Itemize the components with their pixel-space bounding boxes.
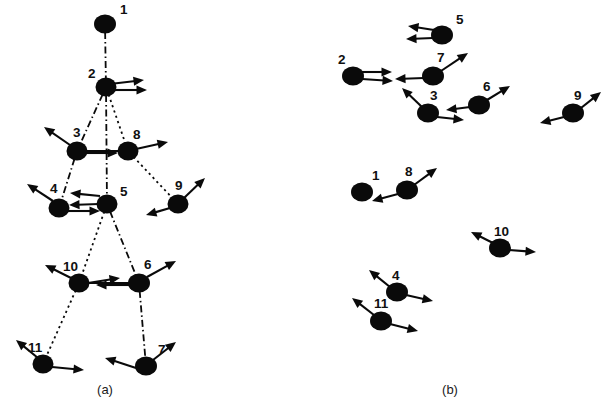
point-light-dot-b-9: [562, 104, 584, 123]
joint-label-b-11: 11: [374, 296, 389, 311]
joint-label-a-10: 10: [63, 259, 78, 274]
point-light-dot-a-10: [69, 274, 90, 293]
point-light-dot-a-9: [168, 195, 189, 214]
joint-label-b-5: 5: [456, 12, 464, 27]
point-light-figure: 1238459106117(a)5273691810411(b): [0, 0, 611, 410]
point-light-dot-b-7: [422, 67, 444, 86]
joint-label-b-1: 1: [372, 168, 380, 183]
panel-caption-a: (a): [97, 382, 113, 397]
joint-label-a-7: 7: [158, 342, 166, 357]
point-light-dot-a-5: [97, 195, 118, 214]
point-light-dot-a-3: [67, 142, 88, 161]
joint-label-a-6: 6: [144, 257, 152, 272]
point-light-dot-b-8: [396, 181, 418, 200]
joint-label-a-1: 1: [120, 2, 128, 17]
point-light-dot-b-6: [468, 96, 490, 115]
point-light-dot-b-1: [351, 183, 373, 202]
figure-root: 1238459106117(a)5273691810411(b): [0, 0, 611, 410]
point-light-dot-b-5: [431, 26, 453, 45]
joint-label-b-8: 8: [405, 164, 413, 179]
point-light-dot-a-2: [96, 78, 117, 97]
vector-shaft: [77, 204, 99, 205]
point-light-dot-a-11: [33, 355, 54, 374]
joint-label-b-7: 7: [437, 50, 445, 65]
vector-shaft: [509, 250, 528, 251]
point-light-dot-a-6: [128, 274, 150, 293]
panel-caption-b: (b): [442, 382, 458, 397]
vector-shaft: [403, 78, 424, 79]
joint-label-a-11: 11: [28, 340, 43, 355]
point-light-dot-b-2: [342, 67, 364, 86]
joint-label-a-2: 2: [88, 66, 96, 81]
point-light-dot-b-11: [370, 312, 392, 331]
joint-label-b-3: 3: [430, 88, 438, 103]
joint-label-a-8: 8: [133, 127, 141, 142]
joint-label-b-2: 2: [338, 52, 346, 67]
joint-label-b-6: 6: [483, 79, 491, 94]
vector-shaft: [362, 79, 385, 80]
joint-label-b-4: 4: [392, 268, 400, 283]
vector-shaft: [414, 38, 433, 39]
joint-label-a-9: 9: [175, 178, 183, 193]
joint-label-a-5: 5: [120, 184, 128, 199]
joint-label-a-4: 4: [50, 181, 58, 196]
point-light-dot-b-3: [417, 104, 439, 123]
point-light-dot-a-1: [94, 15, 116, 34]
point-light-dot-a-8: [118, 142, 139, 161]
joint-label-b-9: 9: [574, 88, 582, 103]
joint-label-b-10: 10: [494, 224, 509, 239]
joint-label-a-3: 3: [73, 125, 81, 140]
point-light-dot-b-4: [386, 283, 408, 302]
point-light-dot-b-10: [489, 239, 511, 258]
point-light-dot-a-7: [135, 357, 157, 376]
point-light-dot-a-4: [49, 199, 70, 218]
